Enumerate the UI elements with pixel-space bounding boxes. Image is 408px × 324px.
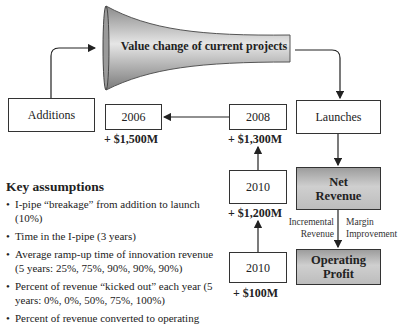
operating-profit-label: Operating Profit (307, 253, 370, 281)
year-2010-box-lower: 2010 (229, 252, 287, 283)
key-assumptions-title: Key assumptions (6, 180, 221, 194)
year-2010-upper-label: 2010 (246, 180, 270, 194)
year-2010-lower-value: + $100M (233, 286, 278, 301)
year-2006-label: 2006 (122, 110, 146, 124)
year-2008-box: 2008 (229, 104, 287, 130)
year-2010-upper-value: + $1,200M (228, 206, 282, 221)
launches-box: Launches (296, 100, 381, 134)
year-2010-box-upper: 2010 (229, 170, 287, 204)
assumption-item: Average ramp-up time of innovation reven… (6, 247, 221, 275)
operating-profit-box: Operating Profit (296, 249, 381, 285)
net-revenue-label: Net Revenue (311, 175, 366, 203)
year-2008-value: + $1,300M (228, 132, 282, 147)
incremental-revenue-label: Incremental Revenue (280, 216, 334, 240)
key-assumptions-list: I-pipe “breakage” from addition to launc… (6, 197, 221, 324)
year-2006-box: 2006 (105, 104, 162, 130)
assumption-item: Time in the I-pipe (3 years) (6, 229, 221, 243)
launches-label: Launches (316, 110, 362, 124)
funnel-mouth (103, 6, 109, 90)
net-revenue-box: Net Revenue (296, 167, 381, 210)
year-2006-value: + $1,500M (104, 132, 158, 147)
margin-improvement-label: Margin Improvement (346, 216, 408, 240)
year-2010-lower-label: 2010 (246, 261, 270, 275)
additions-label: Additions (28, 108, 75, 122)
assumption-item: Percent of revenue “kicked out” each yea… (6, 279, 221, 307)
assumption-item: Percent of revenue converted to operatin… (6, 311, 221, 324)
assumption-item: I-pipe “breakage” from addition to launc… (6, 197, 221, 225)
funnel-label: Value change of current projects (118, 39, 290, 54)
year-2008-label: 2008 (246, 110, 270, 124)
key-assumptions: Key assumptions I-pipe “breakage” from a… (6, 180, 221, 324)
additions-box: Additions (8, 98, 95, 132)
